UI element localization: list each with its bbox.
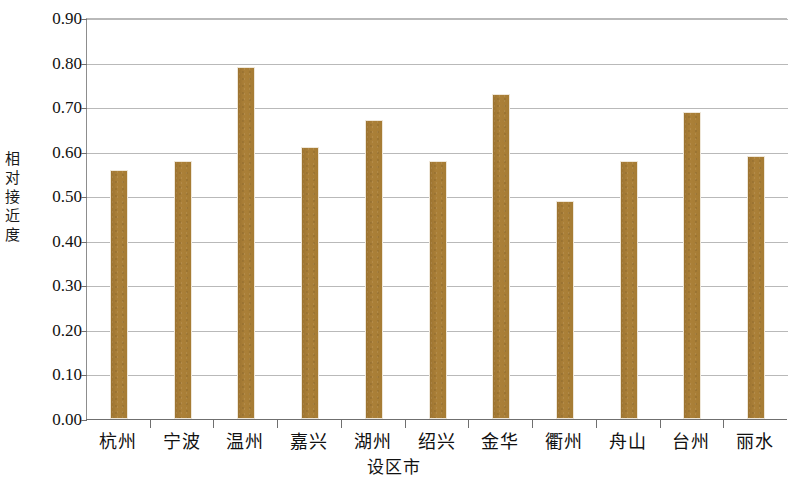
y-axis-tick-mark [81, 19, 87, 20]
x-axis-tick-label: 台州 [672, 429, 710, 455]
x-axis-tick-label: 舟山 [609, 429, 647, 455]
y-axis-tick-mark [81, 64, 87, 65]
y-axis-tick-label: 0.50 [24, 188, 82, 205]
y-axis-tick-mark [81, 242, 87, 243]
x-axis-tick-marks [86, 419, 787, 429]
x-axis-tick-mark [213, 419, 214, 428]
x-axis-tick-label: 金华 [481, 429, 519, 455]
gridline [87, 108, 788, 109]
y-axis-tick-label: 0.10 [24, 366, 82, 383]
y-axis-tick-mark [81, 375, 87, 376]
y-axis-tick-mark [81, 197, 87, 198]
x-axis-tick-mark [723, 419, 724, 428]
x-axis-tick-label: 温州 [226, 429, 264, 455]
x-axis-tick-mark [596, 419, 597, 428]
y-axis-tick-label: 0.30 [24, 277, 82, 294]
y-axis-tick-label: 0.00 [24, 411, 82, 428]
x-axis-tick-label: 宁波 [163, 429, 201, 455]
x-axis-tick-mark [150, 419, 151, 428]
x-axis-tick-labels: 杭州宁波温州嘉兴湖州绍兴金华衢州舟山台州丽水 [86, 429, 787, 459]
y-axis-tick-label: 0.70 [24, 99, 82, 116]
x-axis-tick-mark [277, 419, 278, 428]
bar [747, 156, 765, 419]
bar [237, 67, 255, 419]
y-axis-tick-label: 0.90 [24, 10, 82, 27]
x-axis-tick-mark [341, 419, 342, 428]
gridline [87, 19, 788, 20]
bar [492, 94, 510, 419]
y-axis-tick-mark [81, 286, 87, 287]
bar [429, 161, 447, 419]
x-axis-tick-label: 绍兴 [418, 429, 456, 455]
x-axis-tick-label: 嘉兴 [290, 429, 328, 455]
x-axis-tick-label: 丽水 [736, 429, 774, 455]
y-axis-tick-labels: 0.000.100.200.300.400.500.600.700.800.90 [22, 0, 82, 484]
y-axis-tick-mark [81, 108, 87, 109]
x-axis-tick-mark [468, 419, 469, 428]
bar [365, 120, 383, 419]
gridline [87, 64, 788, 65]
x-axis-tick-label: 湖州 [354, 429, 392, 455]
y-axis-tick-mark [81, 331, 87, 332]
y-axis-tick-label: 0.80 [24, 54, 82, 71]
bar [301, 147, 319, 419]
y-axis-title: 相对接近度 [2, 150, 24, 245]
y-axis-tick-label: 0.20 [24, 321, 82, 338]
bar [620, 161, 638, 419]
bar [174, 161, 192, 419]
x-axis-tick-label: 杭州 [99, 429, 137, 455]
x-axis-title: 设区市 [0, 457, 787, 479]
x-axis-tick-mark [405, 419, 406, 428]
bar [110, 170, 128, 420]
x-axis-tick-label: 衢州 [545, 429, 583, 455]
y-axis-tick-label: 0.60 [24, 143, 82, 160]
bar [683, 112, 701, 419]
y-axis-tick-label: 0.40 [24, 232, 82, 249]
x-axis-tick-mark [532, 419, 533, 428]
bar [556, 201, 574, 419]
x-axis-tick-mark [660, 419, 661, 428]
y-axis-tick-mark [81, 153, 87, 154]
plot-area [86, 18, 787, 419]
